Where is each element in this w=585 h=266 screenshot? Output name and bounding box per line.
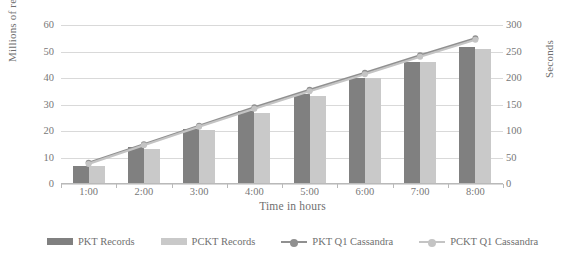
y-axis-right-tick-label: 150: [506, 100, 536, 110]
x-axis-tick-label: 6:00: [340, 186, 390, 197]
x-axis-tick-label: 7:00: [395, 186, 445, 197]
x-tick-mark: [61, 184, 62, 188]
line-series-marker: [86, 161, 92, 167]
legend-item[interactable]: PKT Records: [47, 236, 135, 247]
legend-label: PKT Q1 Cassandra: [312, 236, 393, 247]
y-axis-title-right: Seconds: [543, 14, 555, 104]
plot-area: [61, 25, 503, 184]
y-axis-left-tick-label: 10: [28, 153, 54, 163]
legend-swatch-icon: [47, 238, 73, 245]
line-series-marker: [472, 37, 478, 43]
x-tick-mark: [448, 184, 449, 188]
line-series-marker: [251, 106, 257, 112]
chart-container: Millions of records Seconds Time in hour…: [0, 0, 585, 266]
x-axis-tick-label: 2:00: [119, 186, 169, 197]
y-axis-left-tick-label: 40: [28, 73, 54, 83]
y-axis-left-tick-label: 0: [28, 179, 54, 189]
x-axis-tick-label: 3:00: [174, 186, 224, 197]
legend-item[interactable]: PCKT Q1 Cassandra: [419, 236, 538, 247]
x-tick-mark: [503, 184, 504, 188]
legend-line-marker-icon: [428, 239, 436, 247]
legend-line-marker-icon: [290, 239, 298, 247]
x-tick-mark: [172, 184, 173, 188]
y-axis-right-tick-label: 100: [506, 126, 536, 136]
legend-label: PCKT Q1 Cassandra: [450, 236, 538, 247]
x-axis-tick-label: 8:00: [450, 186, 500, 197]
y-axis-right-tick-label: 0: [506, 179, 536, 189]
legend-line-icon: [281, 237, 307, 246]
y-axis-right-tick-label: 50: [506, 153, 536, 163]
legend-swatch-icon: [161, 238, 187, 245]
y-axis-left-tick-label: 30: [28, 100, 54, 110]
legend-item[interactable]: PCKT Records: [161, 236, 256, 247]
line-series-marker: [362, 71, 368, 77]
y-axis-left-tick-label: 50: [28, 47, 54, 57]
legend-item[interactable]: PKT Q1 Cassandra: [281, 236, 393, 247]
y-axis-right-tick-label: 300: [506, 20, 536, 30]
legend-label: PCKT Records: [192, 236, 256, 247]
x-tick-mark: [393, 184, 394, 188]
chart-legend: PKT RecordsPCKT RecordsPKT Q1 CassandraP…: [0, 236, 585, 247]
y-axis-right-tick-label: 250: [506, 47, 536, 57]
x-tick-mark: [227, 184, 228, 188]
legend-line-icon: [419, 237, 445, 246]
x-axis-tick-label: 1:00: [64, 186, 114, 197]
x-tick-mark: [116, 184, 117, 188]
legend-label: PKT Records: [78, 236, 135, 247]
x-axis-tick-label: 4:00: [229, 186, 279, 197]
line-series-layer: [61, 25, 503, 184]
line-series-marker: [307, 88, 313, 94]
line-series-marker: [141, 142, 147, 148]
y-axis-title-left: Millions of records: [6, 0, 18, 78]
x-tick-mark: [337, 184, 338, 188]
x-tick-mark: [282, 184, 283, 188]
line-series-marker: [196, 124, 202, 130]
y-axis-left-tick-label: 60: [28, 20, 54, 30]
line-series-marker: [417, 54, 423, 60]
x-axis-title: Time in hours: [0, 200, 585, 212]
y-axis-right-tick-label: 200: [506, 73, 536, 83]
y-axis-left-tick-label: 20: [28, 126, 54, 136]
x-axis-tick-label: 5:00: [285, 186, 335, 197]
